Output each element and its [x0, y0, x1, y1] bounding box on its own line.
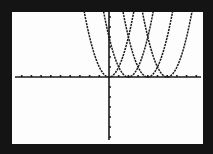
calculator-screen-bezel [0, 0, 213, 154]
curves [84, 12, 193, 77]
graph-plot [12, 12, 203, 144]
graph-screen [12, 12, 203, 144]
parabola-4 [142, 12, 193, 77]
parabola-3 [123, 12, 174, 77]
